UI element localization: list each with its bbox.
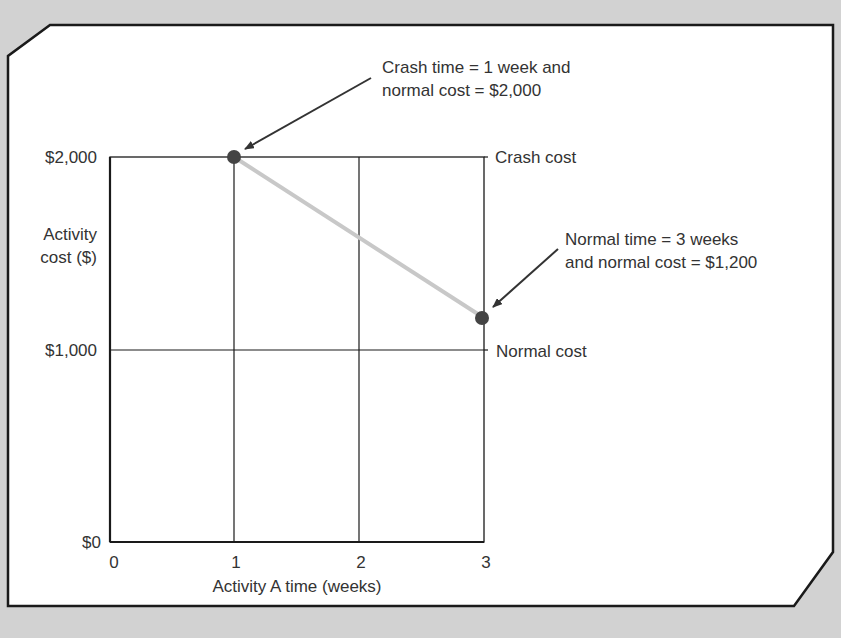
y-tick-2000: $2,000 xyxy=(45,148,97,167)
x-tick-3: 3 xyxy=(481,553,490,572)
chart-figure: Crash time = 1 week and normal cost = $2… xyxy=(0,0,841,638)
y-tick-1000: $1,000 xyxy=(45,341,97,360)
y-axis-label-line1: Activity xyxy=(43,225,97,244)
figure-panel xyxy=(8,25,833,606)
y-tick-0: $0 xyxy=(82,533,101,552)
y-axis-label-line2: cost ($) xyxy=(40,248,97,267)
crash-point-annotation-line1: Crash time = 1 week and xyxy=(382,58,571,77)
x-tick-2: 2 xyxy=(356,553,365,572)
crash-cost-label: Crash cost xyxy=(495,148,577,167)
crash-point-annotation-line2: normal cost = $2,000 xyxy=(382,81,541,100)
crash-point xyxy=(227,150,241,164)
normal-point xyxy=(475,311,489,325)
x-tick-1: 1 xyxy=(231,553,240,572)
normal-point-annotation-line1: Normal time = 3 weeks xyxy=(565,230,738,249)
x-tick-0: 0 xyxy=(109,553,118,572)
normal-cost-label: Normal cost xyxy=(496,342,587,361)
x-axis-label: Activity A time (weeks) xyxy=(212,577,381,596)
normal-point-annotation-line2: and normal cost = $1,200 xyxy=(565,253,757,272)
